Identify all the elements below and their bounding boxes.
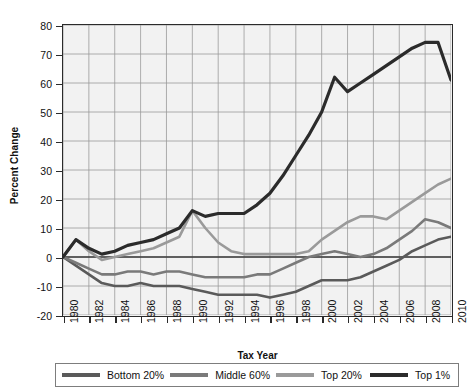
legend-line-swatch xyxy=(276,373,314,377)
y-tick-mark xyxy=(56,142,62,143)
chart-legend: Bottom 20%Middle 60%Top 20%Top 1% xyxy=(55,363,459,387)
x-tick-mark xyxy=(270,317,271,323)
x-tick-label: 1980 xyxy=(68,300,80,323)
x-axis-title: Tax Year xyxy=(62,350,453,361)
legend-label: Bottom 20% xyxy=(107,369,164,381)
x-tick-mark xyxy=(115,317,116,323)
x-tick-label: 2004 xyxy=(378,300,390,323)
y-tick-label: 40 xyxy=(22,136,52,148)
x-tick-mark xyxy=(452,317,453,323)
x-tick-mark xyxy=(426,317,427,323)
series-line-top-1 xyxy=(63,42,451,257)
x-tick-mark xyxy=(141,317,142,323)
y-tick-label: 30 xyxy=(22,165,52,177)
chart-figure: Percent Change 80706050403020100-10-20 1… xyxy=(0,0,474,392)
x-tick-mark xyxy=(245,317,246,323)
legend-line-swatch xyxy=(370,373,408,377)
plot-svg xyxy=(63,25,451,315)
x-tick-label: 1990 xyxy=(197,300,209,323)
x-tick-mark xyxy=(322,317,323,323)
x-tick-mark xyxy=(167,317,168,323)
x-tick-mark xyxy=(89,317,90,323)
x-tick-label: 2010 xyxy=(456,300,468,323)
y-tick-mark xyxy=(56,287,62,288)
legend-item[interactable]: Top 1% xyxy=(364,369,458,381)
x-tick-label: 2000 xyxy=(326,300,338,323)
y-tick-mark xyxy=(56,171,62,172)
legend-item[interactable]: Bottom 20% xyxy=(56,369,164,381)
y-tick-label: 10 xyxy=(22,223,52,235)
y-tick-label: 0 xyxy=(22,252,52,264)
y-tick-mark xyxy=(56,84,62,85)
x-axis-title-text: Tax Year xyxy=(237,350,277,361)
y-tick-label: 50 xyxy=(22,107,52,119)
x-tick-mark xyxy=(193,317,194,323)
x-tick-mark xyxy=(296,317,297,323)
legend-label: Top 1% xyxy=(415,369,450,381)
x-tick-mark xyxy=(219,317,220,323)
legend-label: Top 20% xyxy=(321,369,362,381)
x-tick-label: 2006 xyxy=(404,300,416,323)
x-tick-label: 1988 xyxy=(171,300,183,323)
legend-line-swatch xyxy=(170,373,208,377)
x-tick-label: 1996 xyxy=(274,300,286,323)
x-tick-label: 1992 xyxy=(223,300,235,323)
x-tick-mark xyxy=(400,317,401,323)
x-tick-label: 1994 xyxy=(249,300,261,323)
y-tick-mark xyxy=(56,113,62,114)
y-tick-label: -20 xyxy=(22,310,52,322)
x-tick-label: 2002 xyxy=(352,300,364,323)
y-tick-mark xyxy=(56,26,62,27)
x-tick-label: 1984 xyxy=(119,300,131,323)
x-tick-mark xyxy=(348,317,349,323)
x-tick-label: 2008 xyxy=(430,300,442,323)
legend-line-swatch xyxy=(62,373,100,377)
x-tick-mark xyxy=(64,317,65,323)
y-tick-label: 20 xyxy=(22,194,52,206)
y-tick-mark xyxy=(56,229,62,230)
y-tick-label: 80 xyxy=(22,20,52,32)
x-tick-label: 1986 xyxy=(145,300,157,323)
y-tick-mark xyxy=(56,55,62,56)
series-line-bottom-20 xyxy=(63,237,451,298)
y-tick-mark xyxy=(56,200,62,201)
y-tick-mark xyxy=(56,316,62,317)
plot-area xyxy=(62,24,453,317)
x-tick-label: 1998 xyxy=(300,300,312,323)
legend-item[interactable]: Middle 60% xyxy=(164,369,270,381)
y-tick-label: 70 xyxy=(22,49,52,61)
y-tick-label: 60 xyxy=(22,78,52,90)
legend-label: Middle 60% xyxy=(215,369,270,381)
x-tick-mark xyxy=(374,317,375,323)
legend-item[interactable]: Top 20% xyxy=(270,369,364,381)
x-tick-label: 1982 xyxy=(93,300,105,323)
y-tick-mark xyxy=(56,258,62,259)
y-tick-label: -10 xyxy=(22,281,52,293)
y-axis-title-text: Percent Change xyxy=(10,126,21,204)
